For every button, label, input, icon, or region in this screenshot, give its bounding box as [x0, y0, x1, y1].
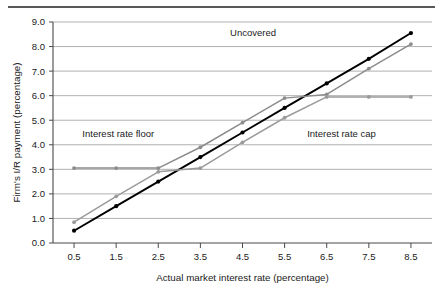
- y-axis-tick-labels: 0.01.02.03.04.05.06.07.08.09.0: [32, 16, 45, 248]
- x-axis-title: Actual market interest rate (percentage): [156, 272, 329, 283]
- series-marker: [114, 204, 118, 208]
- y-tick-label: 6.0: [32, 90, 45, 101]
- figure-container: 0.01.02.03.04.05.06.07.08.09.0 0.51.52.5…: [0, 0, 443, 292]
- x-tick-label: 7.5: [362, 251, 375, 262]
- series-marker: [283, 106, 287, 110]
- y-tick-label: 9.0: [32, 16, 45, 27]
- y-tick-label: 0.0: [32, 237, 45, 248]
- x-axis-tick-labels: 0.51.52.53.54.55.56.57.58.5: [67, 251, 417, 262]
- series-marker: [409, 42, 413, 46]
- y-tick-label: 5.0: [32, 115, 45, 126]
- x-tick-label: 2.5: [152, 251, 165, 262]
- y-tick-label: 8.0: [32, 41, 45, 52]
- line-chart: 0.01.02.03.04.05.06.07.08.09.0 0.51.52.5…: [0, 0, 443, 292]
- x-tick-label: 8.5: [404, 251, 417, 262]
- y-tick-label: 4.0: [32, 139, 45, 150]
- series-marker: [72, 220, 76, 224]
- x-tick-label: 0.5: [67, 251, 80, 262]
- series-marker: [367, 67, 371, 71]
- series-marker: [114, 166, 118, 170]
- series-marker: [283, 96, 287, 100]
- series-marker: [325, 95, 329, 99]
- y-tick-label: 2.0: [32, 188, 45, 199]
- x-tick-label: 4.5: [236, 251, 249, 262]
- series-marker: [156, 166, 160, 170]
- y-axis-title-text: Firm's I/R payment (percentage): [11, 62, 22, 202]
- series-marker: [409, 31, 413, 35]
- series-marker: [241, 140, 245, 144]
- series-marker: [198, 145, 202, 149]
- chart-annotation: Interest rate cap: [307, 128, 376, 139]
- x-tick-label: 1.5: [110, 251, 123, 262]
- y-axis-ticks: [49, 22, 53, 243]
- chart-annotations: UncoveredInterest rate floorInterest rat…: [82, 27, 375, 140]
- x-tick-label: 5.5: [278, 251, 291, 262]
- chart-annotation: Uncovered: [230, 27, 276, 38]
- y-axis-title: Firm's I/R payment (percentage): [11, 62, 22, 202]
- series-marker: [325, 81, 329, 85]
- y-tick-label: 7.0: [32, 66, 45, 77]
- y-tick-label: 1.0: [32, 213, 45, 224]
- gridlines: [53, 22, 432, 218]
- series-marker: [72, 229, 76, 233]
- series-marker: [156, 170, 160, 174]
- series-marker: [156, 180, 160, 184]
- y-tick-label: 3.0: [32, 164, 45, 175]
- series-marker: [283, 116, 287, 120]
- series-marker: [198, 155, 202, 159]
- chart-annotation: Interest rate floor: [82, 128, 154, 139]
- x-axis-title-text: Actual market interest rate (percentage): [156, 272, 329, 283]
- series-marker: [409, 95, 413, 99]
- series-marker: [114, 194, 118, 198]
- x-axis-ticks: [74, 243, 411, 248]
- series-marker: [72, 166, 76, 170]
- series-marker: [198, 166, 202, 170]
- x-tick-label: 6.5: [320, 251, 333, 262]
- series-line: [74, 97, 411, 222]
- series-marker: [241, 121, 245, 125]
- series-marker: [367, 57, 371, 61]
- series-marker: [367, 95, 371, 99]
- x-tick-label: 3.5: [194, 251, 207, 262]
- series-marker: [240, 130, 244, 134]
